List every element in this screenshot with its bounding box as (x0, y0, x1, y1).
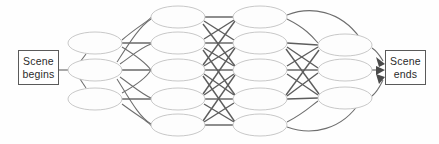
scene-ends-line-2: ends (394, 68, 418, 81)
node-c2-1[interactable] (151, 6, 205, 28)
arrowhead-middle (376, 66, 385, 75)
arrowhead-top (376, 57, 385, 67)
scene-begins-box[interactable]: Scene begins (18, 50, 59, 85)
node-c3-1[interactable] (233, 6, 287, 28)
node-c2-5[interactable] (151, 114, 205, 136)
edge-c1n2-c2n2 (120, 44, 151, 64)
node-c2-3[interactable] (151, 59, 205, 81)
node-c2-2[interactable] (151, 32, 205, 54)
edge-c3n5-c4n3 (287, 101, 318, 122)
column-1-nodes (68, 32, 122, 110)
edge-c1n1-c2n1 (122, 17, 151, 40)
edge-c3n2-c4n1 (287, 43, 318, 45)
edge-c1n2-c2n4 (120, 77, 151, 98)
graph-svg (0, 0, 439, 144)
edges-c4-to-end (372, 48, 385, 96)
column-4-nodes (318, 34, 372, 109)
edge-c3n1-c4n1 (287, 19, 318, 43)
node-c1-2[interactable] (68, 59, 122, 81)
node-c3-5[interactable] (233, 114, 287, 136)
node-c1-1[interactable] (68, 32, 122, 54)
node-c2-4[interactable] (151, 88, 205, 110)
edge-c4n3-end (372, 80, 383, 96)
arrowhead-bottom (376, 74, 385, 84)
scene-graph-canvas: Scene begins Scene ends (0, 0, 439, 144)
scene-ends-line-1: Scene (390, 55, 421, 68)
scene-begins-line-1: Scene (23, 55, 54, 68)
edges-c2-to-c3 (203, 17, 235, 125)
scene-begins-line-2: begins (22, 68, 54, 81)
node-c3-2[interactable] (233, 32, 287, 54)
edge-c1n1-c2n3 (122, 47, 151, 70)
column-2-nodes (151, 6, 205, 136)
node-c4-2[interactable] (318, 59, 372, 81)
scene-ends-box[interactable]: Scene ends (385, 50, 426, 85)
edge-c3n4-c4n3 (287, 98, 318, 99)
edge-c1n3-c2n5 (122, 104, 151, 126)
node-c3-3[interactable] (233, 59, 287, 81)
column-3-nodes (233, 6, 287, 136)
edge-c1n2-c2n1 (117, 19, 151, 62)
node-c3-4[interactable] (233, 88, 287, 110)
node-c4-3[interactable] (318, 87, 372, 109)
node-c4-1[interactable] (318, 34, 372, 56)
node-c1-3[interactable] (68, 88, 122, 110)
